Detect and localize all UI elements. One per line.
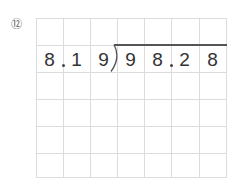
- grid-line: [36, 18, 37, 178]
- dividend-digit: 8: [199, 45, 226, 72]
- dividend-digit: 2: [171, 45, 198, 72]
- grid-line: [90, 18, 91, 178]
- grid-line: [117, 18, 118, 178]
- grid-line: [36, 72, 227, 73]
- grid-line: [36, 99, 227, 100]
- answer-grid: [36, 18, 227, 178]
- grid-line: [199, 18, 200, 178]
- grid-line: [36, 18, 227, 19]
- grid-line: [36, 177, 227, 178]
- divisor-digit: 1: [63, 45, 90, 72]
- grid-line: [36, 126, 227, 127]
- dividend-digit: 9: [117, 45, 144, 72]
- grid-line: [226, 18, 227, 178]
- grid-line: [144, 18, 145, 178]
- divisor-digit: 8: [36, 45, 63, 72]
- division-bracket-icon: [104, 44, 118, 72]
- grid-line: [63, 18, 64, 178]
- problem-number: ⑫: [11, 19, 22, 30]
- dividend-digit: 8: [144, 45, 171, 72]
- grid-line: [171, 18, 172, 178]
- grid-line: [36, 153, 227, 154]
